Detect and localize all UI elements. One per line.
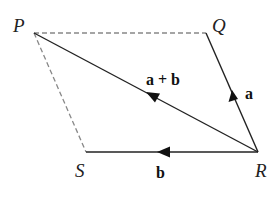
vector-a-plus-b-line — [34, 33, 258, 152]
arrowhead-a-icon — [229, 90, 239, 102]
arrowhead-b-icon — [157, 147, 170, 158]
vertex-label-q: Q — [212, 15, 226, 36]
vector-diagram: P Q R S a + b a b — [0, 0, 280, 197]
diagram-canvas: P Q R S a + b a b — [0, 0, 280, 197]
vector-label-a: a — [245, 85, 253, 102]
edge-ps-dashed — [34, 33, 86, 152]
vector-label-a-plus-b: a + b — [146, 71, 180, 88]
vertex-label-r: R — [254, 160, 267, 181]
arrowhead-a-plus-b-icon — [146, 92, 160, 103]
vector-label-b: b — [156, 164, 165, 181]
vertex-label-p: P — [12, 15, 25, 36]
vertex-label-s: S — [75, 160, 85, 181]
